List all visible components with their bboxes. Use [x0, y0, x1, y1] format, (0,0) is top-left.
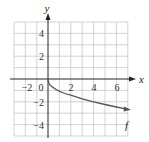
y-tick--2: −2 [33, 97, 44, 108]
y-tick-4: 4 [39, 28, 44, 39]
y-tick--4: −4 [33, 120, 44, 131]
y-axis-label: y [44, 2, 50, 14]
y-tick-2: 2 [39, 51, 44, 62]
x-axis-label: x [138, 73, 144, 85]
x-tick--2: −2 [22, 82, 33, 93]
y-axis-arrow-icon [46, 13, 51, 20]
origin-label: 0 [39, 82, 44, 93]
x-tick-4: 4 [92, 82, 97, 93]
function-graph: −2 0 2 4 6 4 2 −2 −4 x y f [0, 0, 149, 142]
curve-arrow-icon [124, 107, 132, 112]
x-axis-arrow-icon [129, 77, 136, 82]
x-tick-2: 2 [69, 82, 74, 93]
x-tick-6: 6 [115, 82, 120, 93]
curve-label-f: f [125, 119, 130, 131]
